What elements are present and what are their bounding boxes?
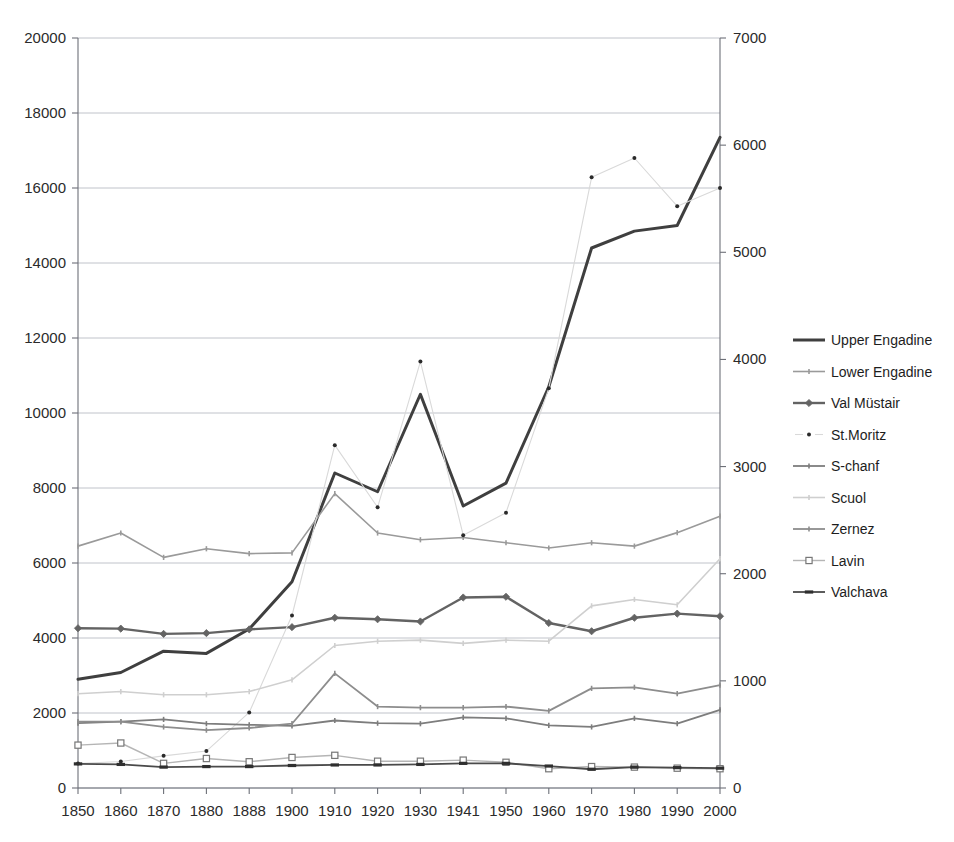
- left-axis-tick-label: 2000: [33, 704, 66, 721]
- legend-item-st-moritz[interactable]: St.Moritz: [795, 427, 886, 443]
- legend-item-upper-engadine[interactable]: Upper Engadine: [793, 332, 932, 348]
- right-axis-tick-label: 3000: [733, 458, 766, 475]
- x-axis-tick-label: 1950: [489, 802, 522, 819]
- left-axis-tick-label: 10000: [24, 404, 66, 421]
- x-axis-tick-label: 1880: [190, 802, 223, 819]
- legend-item-scuol[interactable]: Scuol: [793, 490, 866, 506]
- series-marker: [160, 630, 167, 637]
- series-marker: [716, 767, 724, 770]
- series-marker: [418, 360, 422, 364]
- series-marker: [289, 754, 295, 760]
- left-axis-tick-label: 0: [58, 779, 66, 796]
- x-axis-tick-label: 2000: [703, 802, 736, 819]
- series-marker: [202, 765, 210, 768]
- series-marker: [245, 765, 253, 768]
- series-marker: [632, 156, 636, 160]
- legend-label: Lower Engadine: [831, 364, 932, 380]
- series-line: [78, 597, 720, 634]
- legend-swatch-icon: [805, 590, 813, 593]
- series-marker: [502, 762, 510, 765]
- series-marker: [288, 624, 295, 631]
- right-axis-tick-label: 5000: [733, 243, 766, 260]
- legend-label: Zernez: [831, 521, 875, 537]
- series-marker: [331, 614, 338, 621]
- series-marker: [203, 755, 209, 761]
- left-axis-tick-label: 18000: [24, 104, 66, 121]
- series-line: [78, 710, 720, 727]
- x-axis-tick-label: 1860: [104, 802, 137, 819]
- series-marker: [290, 614, 294, 618]
- series-marker: [588, 628, 595, 635]
- chart-canvas: 1850186018701880188819001910192019301941…: [0, 0, 954, 842]
- legend-item-s-chanf[interactable]: S-chanf: [793, 458, 879, 474]
- x-axis-tick-label: 1920: [361, 802, 394, 819]
- series-scuol: [78, 556, 720, 697]
- x-axis-tick-label: 1970: [575, 802, 608, 819]
- left-axis-tick-label: 12000: [24, 329, 66, 346]
- series-marker: [246, 759, 252, 765]
- left-axis-tick-label: 16000: [24, 179, 66, 196]
- x-axis-tick-label: 1930: [404, 802, 437, 819]
- legend-item-valchava[interactable]: Valchava: [793, 584, 888, 600]
- right-axis-tick-label: 1000: [733, 672, 766, 689]
- axes-group: [72, 38, 726, 794]
- series-marker: [117, 625, 124, 632]
- legend-label: S-chanf: [831, 458, 879, 474]
- x-axis-tick-label: 1990: [661, 802, 694, 819]
- series-line: [78, 673, 720, 730]
- series-marker: [332, 752, 338, 758]
- series-marker: [373, 763, 381, 766]
- series-marker: [716, 613, 723, 620]
- x-axis-tick-label: 1941: [447, 802, 480, 819]
- series-st-moritz: [76, 156, 722, 766]
- x-axis-tick-label: 1980: [618, 802, 651, 819]
- legend-group: Upper EngadineLower EngadineVal MüstairS…: [793, 332, 932, 600]
- series-s-chanf: [78, 707, 720, 729]
- series-marker: [203, 630, 210, 637]
- x-axis-tick-label: 1910: [318, 802, 351, 819]
- series-line: [78, 137, 720, 679]
- series-marker: [459, 762, 467, 765]
- series-marker: [718, 186, 722, 190]
- series-line: [78, 559, 720, 695]
- series-marker: [118, 740, 124, 746]
- series-marker: [630, 766, 638, 769]
- series-group: [74, 137, 724, 771]
- series-val-m-stair: [74, 593, 723, 637]
- series-marker: [590, 175, 594, 179]
- series-marker: [631, 614, 638, 621]
- series-marker: [461, 533, 465, 537]
- legend-swatch-icon: [805, 399, 812, 406]
- series-upper-engadine: [78, 137, 720, 679]
- series-marker: [159, 766, 167, 769]
- series-marker: [545, 764, 553, 767]
- right-axis-tick-label: 2000: [733, 565, 766, 582]
- x-axis-tick-label: 1960: [532, 802, 565, 819]
- series-marker: [376, 505, 380, 509]
- series-marker: [162, 754, 166, 758]
- series-marker: [331, 763, 339, 766]
- x-axis-tick-label: 1888: [233, 802, 266, 819]
- right-axis-labels-group: 01000200030004000500060007000: [733, 29, 766, 796]
- legend-item-val-m-stair[interactable]: Val Müstair: [793, 395, 900, 411]
- series-marker: [374, 616, 381, 623]
- legend-label: Valchava: [831, 584, 888, 600]
- legend-swatch-icon: [806, 557, 812, 563]
- series-marker: [587, 768, 595, 771]
- left-axis-tick-label: 20000: [24, 29, 66, 46]
- legend-item-lower-engadine[interactable]: Lower Engadine: [793, 364, 932, 380]
- series-marker: [75, 742, 81, 748]
- series-marker: [674, 610, 681, 617]
- population-line-chart: 1850186018701880188819001910192019301941…: [0, 0, 954, 842]
- right-axis-tick-label: 6000: [733, 136, 766, 153]
- series-line: [78, 494, 720, 558]
- legend-item-zernez[interactable]: Zernez: [793, 521, 875, 537]
- left-axis-labels-group: 0200040006000800010000120001400016000180…: [24, 29, 66, 796]
- series-marker: [547, 386, 551, 390]
- series-marker: [204, 749, 208, 753]
- series-line: [78, 158, 720, 764]
- left-axis-tick-label: 14000: [24, 254, 66, 271]
- series-marker: [74, 762, 82, 765]
- legend-label: Scuol: [831, 490, 866, 506]
- legend-item-lavin[interactable]: Lavin: [793, 553, 864, 569]
